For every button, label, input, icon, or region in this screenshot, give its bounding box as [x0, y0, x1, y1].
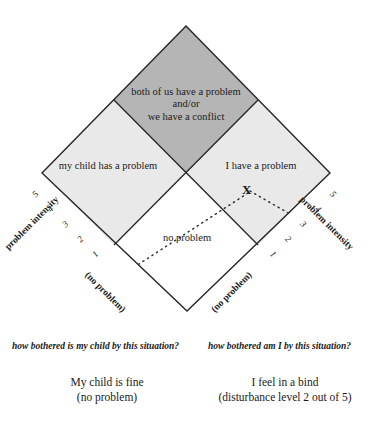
- data-point-marker: X: [242, 182, 251, 198]
- problem-ownership-diagram: [0, 0, 386, 340]
- conclusion-child-line1: My child is fine: [22, 375, 192, 390]
- conclusion-child-line2: (no problem): [22, 390, 192, 405]
- conclusion-self-line2: (disturbance level 2 out of 5): [190, 390, 380, 405]
- caption-self-question: how bothered am I by this situation?: [208, 341, 351, 351]
- diagram-stage: both of us have a problem and/or we have…: [0, 0, 386, 430]
- conclusion-child: My child is fine (no problem): [22, 375, 192, 404]
- conclusion-self-line1: I feel in a bind: [190, 375, 380, 390]
- caption-child-question: how bothered is my child by this situati…: [12, 341, 179, 351]
- conclusion-self: I feel in a bind (disturbance level 2 ou…: [190, 375, 380, 404]
